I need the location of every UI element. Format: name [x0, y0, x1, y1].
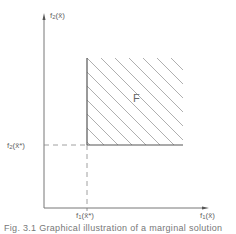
reference-x-label-arg: (x̄*) [82, 211, 94, 220]
reference-y-label-arg: (x̄*) [13, 141, 25, 150]
x-axis-arrow-icon [202, 207, 209, 210]
figure-caption: Fig. 3.1 Graphical illustration of a mar… [4, 224, 222, 233]
y-axis [43, 13, 46, 208]
feasible-region-hatching [87, 58, 236, 145]
y-axis-label-arg: (x̄) [56, 11, 65, 20]
y-axis-label: f2(x̄) [50, 12, 65, 20]
diagram-canvas [0, 0, 236, 234]
x-axis-label-arg: (x̄) [206, 211, 215, 220]
x-axis-label: f1(x̄) [200, 212, 215, 220]
reference-x-label: f1(x̄*) [76, 212, 94, 220]
reference-dashes [44, 145, 87, 208]
reference-y-label: f2(x̄*) [7, 142, 25, 150]
x-axis [44, 207, 209, 210]
y-axis-arrow-icon [43, 13, 46, 20]
region-label: F [133, 93, 140, 104]
